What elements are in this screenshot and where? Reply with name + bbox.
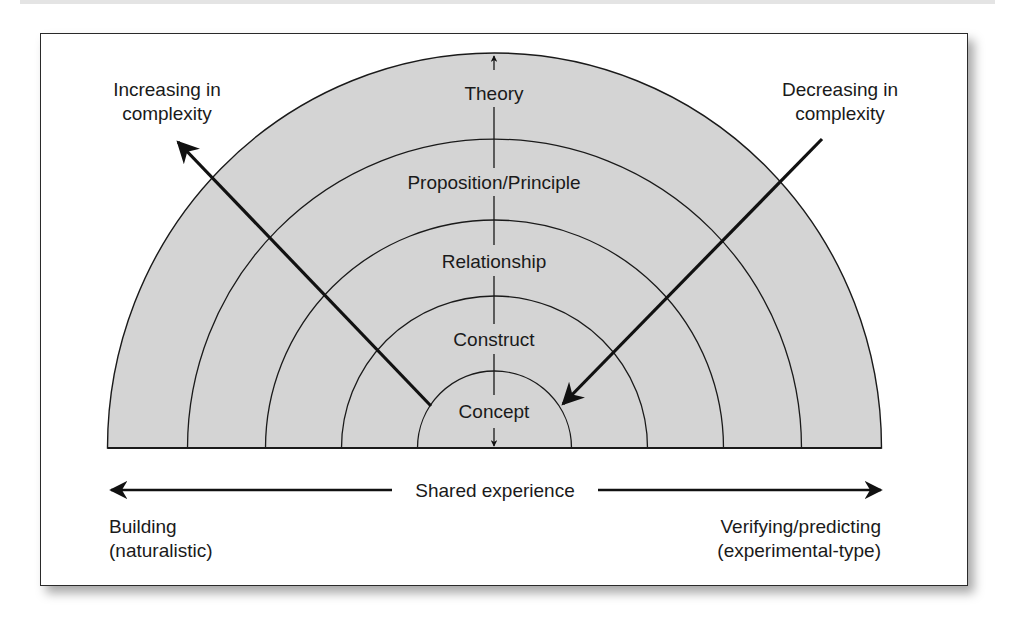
right-annotation-line2: complexity (795, 103, 885, 124)
left-annotation-line2: complexity (122, 103, 212, 124)
ring-label-proposition: Proposition/Principle (407, 172, 580, 193)
ring-label-theory: Theory (464, 83, 524, 104)
building-label-line1: Building (109, 516, 177, 537)
ring-label-relationship: Relationship (442, 251, 547, 272)
right-annotation-line1: Decreasing in (782, 79, 898, 100)
verifying-label-line2: (experimental-type) (717, 540, 881, 561)
ring-label-construct: Construct (453, 329, 535, 350)
ring-label-concept: Concept (459, 401, 530, 422)
diagram-canvas: Theory Proposition/Principle Relationshi… (0, 0, 1022, 620)
building-label-line2: (naturalistic) (109, 540, 212, 561)
left-annotation-line1: Increasing in (113, 79, 221, 100)
verifying-label-line1: Verifying/predicting (720, 516, 881, 537)
shared-experience-label: Shared experience (415, 480, 575, 501)
